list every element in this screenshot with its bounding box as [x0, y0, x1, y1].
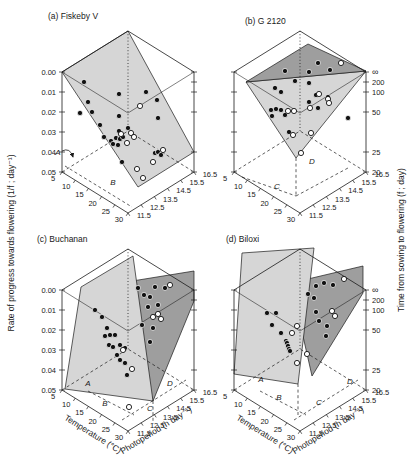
data-point-filled — [269, 113, 274, 118]
photoperiod-tick — [353, 180, 355, 183]
data-point-open — [118, 131, 123, 136]
rate-tick-label: 0.00 — [41, 286, 56, 295]
data-point-filled — [122, 360, 127, 365]
data-point-filled — [162, 285, 167, 290]
data-point-filled — [154, 97, 159, 102]
region-boundary-dash — [296, 168, 348, 196]
data-point-filled — [272, 85, 277, 90]
data-point-filled — [345, 115, 350, 120]
data-point-filled — [273, 106, 278, 111]
temperature-tick-label: 5 — [51, 174, 55, 183]
temperature-tick-label: 20 — [260, 417, 268, 426]
photoperiod-tick-label: 13.5 — [163, 195, 178, 204]
data-point-filled — [269, 322, 274, 327]
temperature-tick — [259, 188, 261, 191]
temperature-tick — [87, 188, 89, 191]
temperature-tick — [298, 213, 300, 216]
time-tick-label: 200 — [372, 78, 385, 87]
region-boundary-dash — [65, 166, 132, 207]
temperature-tick — [60, 172, 62, 175]
region-label-C: C — [316, 398, 322, 407]
photoperiod-tick-label: 16.5 — [375, 170, 390, 179]
data-point-filled — [152, 284, 157, 289]
data-point-filled — [101, 134, 106, 139]
panel-c-title: (c) Buchanan — [37, 234, 88, 244]
response-surface-light — [246, 71, 366, 158]
photoperiod-tick — [326, 197, 328, 200]
data-point-open — [291, 108, 296, 113]
data-point-open — [150, 159, 155, 164]
temperature-tick-label: 20 — [88, 199, 96, 208]
data-point-filled — [282, 68, 287, 73]
photoperiod-tick — [181, 398, 183, 401]
data-point-open — [341, 276, 346, 281]
temperature-tick — [285, 423, 287, 426]
time-tick-label: ∞ — [372, 285, 378, 295]
time-tick-label: ∞ — [372, 67, 378, 77]
temperature-tick — [126, 213, 128, 216]
time-tick-label: 100 — [372, 88, 385, 97]
data-point-open — [155, 311, 160, 316]
data-point-filled — [316, 318, 321, 323]
region-a-arrow — [62, 150, 73, 157]
data-point-open — [289, 330, 294, 335]
response-surface-light — [234, 248, 314, 384]
rate-tick-label: 0.02 — [41, 108, 56, 117]
temperature-tick-label: 10 — [62, 400, 70, 409]
region-label-B: B — [102, 399, 108, 408]
time-tick-label: 100 — [372, 306, 385, 315]
photoperiod-tick — [300, 431, 302, 434]
data-point-filled — [278, 107, 283, 112]
data-point-filled — [278, 89, 283, 94]
temperature-tick — [272, 415, 274, 418]
photoperiod-tick-label: 16.5 — [203, 170, 218, 179]
data-point-filled — [141, 292, 146, 297]
data-point-filled — [147, 294, 152, 299]
data-point-open — [124, 140, 129, 145]
temperature-tick-label: 30 — [115, 433, 123, 442]
region-label-B: B — [276, 393, 282, 402]
rate-tick-label: 0.01 — [41, 88, 56, 97]
rate-tick-label: 0.03 — [41, 128, 56, 137]
data-point-open — [308, 130, 313, 135]
data-point-filled — [124, 372, 129, 377]
data-point-open — [298, 150, 303, 155]
data-point-open — [120, 347, 125, 352]
data-point-filled — [155, 302, 160, 307]
panel-a: 0.000.010.020.030.040.055101520253011.51… — [41, 31, 217, 224]
temperature-tick — [272, 197, 274, 200]
photoperiod-tick — [194, 172, 196, 175]
photoperiod-tick — [366, 172, 368, 175]
temperature-tick — [73, 398, 75, 401]
data-point-filled — [311, 295, 316, 300]
region-label-A: A — [84, 379, 90, 388]
data-point-filled — [147, 339, 152, 344]
data-point-filled — [139, 322, 144, 327]
photoperiod-tick-label: 16.5 — [203, 388, 218, 397]
temperature-tick-label: 15 — [75, 408, 83, 417]
temperature-tick-label: 5 — [51, 392, 55, 401]
time-tick-label: 25 — [372, 366, 380, 375]
data-point-filled — [145, 304, 150, 309]
data-point-filled — [115, 142, 120, 147]
data-point-filled — [97, 122, 102, 127]
rate-tick-label: 0.02 — [41, 326, 56, 335]
rate-tick-label: 0.04 — [41, 366, 56, 375]
rate-tick-label: 0.04 — [41, 148, 56, 157]
data-point-open — [285, 108, 290, 113]
photoperiod-tick-label: 14.5 — [348, 186, 363, 195]
data-point-filled — [324, 323, 329, 328]
data-point-open — [316, 91, 321, 96]
data-point-open — [131, 134, 136, 139]
data-point-filled — [135, 285, 140, 290]
temperature-tick-label: 15 — [75, 190, 83, 199]
data-point-filled — [306, 80, 311, 85]
data-point-open — [126, 404, 131, 409]
temperature-tick — [245, 180, 247, 183]
region-label-D: D — [309, 157, 315, 166]
photoperiod-tick — [168, 406, 170, 409]
data-point-filled — [313, 283, 318, 288]
photoperiod-tick — [154, 415, 156, 418]
region-label-D: D — [167, 379, 173, 388]
photoperiod-tick-label: 13.5 — [335, 195, 350, 204]
